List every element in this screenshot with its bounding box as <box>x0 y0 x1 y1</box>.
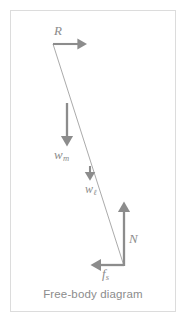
vector-subscript-w-m: m <box>63 153 69 163</box>
figure-caption: Free-body diagram <box>11 288 175 301</box>
vector-symbol-w-l: w <box>85 182 93 196</box>
vector-label-N: N <box>129 232 138 247</box>
vector-label-f-s: fs <box>102 267 109 282</box>
vector-label-w-m: wm <box>54 148 69 163</box>
vector-symbol-w-m: w <box>54 147 63 162</box>
free-body-diagram-figure: R wm wℓ N fs Free-body diagram <box>0 0 187 325</box>
free-body-diagram-canvas <box>0 0 187 325</box>
vector-symbol-R: R <box>54 23 62 38</box>
vector-symbol-N: N <box>129 231 138 246</box>
vector-subscript-w-l: ℓ <box>93 188 96 197</box>
vector-label-R: R <box>54 24 62 39</box>
vector-subscript-f-s: s <box>106 272 109 282</box>
vector-label-w-l: wℓ <box>85 183 97 197</box>
